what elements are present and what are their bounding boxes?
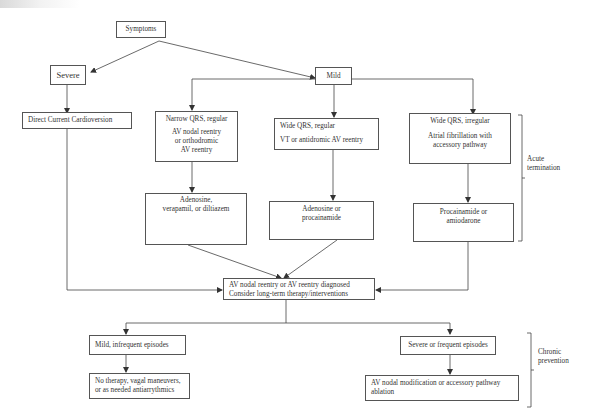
symptoms-label: Symptoms [126, 25, 157, 33]
chronic-prevention-label: Chronic prevention [538, 348, 569, 366]
mild-infrequent-label: Mild, infrequent episodes [95, 341, 169, 349]
narrow-qrs-title: Narrow QRS, regular [156, 115, 237, 124]
ablation-line2: ablation [371, 388, 518, 397]
wide-qrs-irregular-title: Wide QRS, irregular [410, 117, 510, 126]
procainamide-amiodarone-node: Procainamide or amiodarone [413, 203, 514, 242]
adenosine-verapamil-line2: verapamil, or diltiazem [146, 205, 246, 214]
diagnosed-line1: AV nodal reentry or AV reentry diagnosed [229, 281, 374, 290]
no-therapy-line2: or as needed antiarrythmics [95, 386, 189, 395]
narrow-qrs-line3: AV reentry [156, 146, 237, 155]
acute-termination-label: Acute termination [527, 155, 560, 173]
mild-infrequent-node: Mild, infrequent episodes [89, 335, 186, 355]
chronic-line2: prevention [538, 357, 569, 366]
wide-qrs-regular-line1: VT or antidromic AV reentry [280, 136, 378, 145]
no-therapy-line1: No therapy, vagal maneuvers, [95, 377, 189, 386]
adenosine-verapamil-node: Adenosine, verapamil, or diltiazem [145, 193, 247, 245]
adenosine-verapamil-line1: Adenosine, [146, 196, 246, 205]
mild-node: Mild [315, 67, 352, 85]
severe-node: Severe [50, 65, 86, 85]
narrow-qrs-line1: AV nodal reentry [156, 128, 237, 137]
dc-cardioversion-node: Direct Current Cardioversion [22, 112, 132, 129]
ablation-line1: AV nodal modification or accessory pathw… [371, 379, 518, 388]
wide-qrs-regular-node: Wide QRS, regular VT or antidromic AV re… [274, 118, 379, 150]
severe-label: Severe [56, 70, 79, 80]
adenosine-procainamide-node: Adenosine or procainamide [269, 201, 374, 240]
wide-qrs-regular-title: Wide QRS, regular [280, 122, 378, 131]
wide-qrs-irregular-line1: Atrial fibrillation with [410, 132, 510, 141]
mild-label: Mild [327, 72, 341, 80]
wide-qrs-irregular-line2: accessory pathway [410, 141, 510, 150]
narrow-qrs-node: Narrow QRS, regular AV nodal reentry or … [155, 111, 238, 162]
severe-frequent-node: Severe or frequent episodes [400, 336, 496, 355]
wide-qrs-irregular-node: Wide QRS, irregular Atrial fibrillation … [409, 113, 511, 164]
symptoms-node: Symptoms [116, 21, 166, 38]
severe-frequent-label: Severe or frequent episodes [408, 341, 488, 349]
adenosine-procainamide-line1: Adenosine or [270, 205, 373, 214]
ablation-node: AV nodal modification or accessory pathw… [365, 375, 519, 401]
diagnosed-line2: Consider long-term therapy/interventions [229, 290, 374, 299]
adenosine-procainamide-line2: procainamide [270, 214, 373, 223]
narrow-qrs-line2: or orthodromic [156, 137, 237, 146]
diagnosed-node: AV nodal reentry or AV reentry diagnosed… [223, 278, 375, 300]
procainamide-amiodarone-line1: Procainamide or [414, 208, 513, 217]
no-therapy-node: No therapy, vagal maneuvers, or as neede… [89, 373, 190, 399]
procainamide-amiodarone-line2: amiodarone [414, 217, 513, 226]
acute-line1: Acute [527, 155, 560, 164]
chronic-line1: Chronic [538, 348, 569, 357]
dc-cardioversion-label: Direct Current Cardioversion [28, 116, 112, 124]
acute-line2: termination [527, 164, 560, 173]
